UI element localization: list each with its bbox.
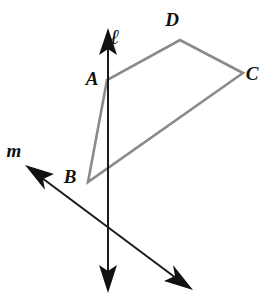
line-label-m: m [7, 140, 22, 161]
line-m-arrowhead-downright-icon [164, 265, 193, 290]
geometry-canvas: A B C D ℓ m [0, 0, 276, 305]
quadrilateral-abcd [88, 40, 243, 182]
vertex-label-c: C [246, 63, 259, 84]
geometry-diagram: A B C D ℓ m [0, 0, 276, 305]
line-label-l: ℓ [111, 25, 120, 49]
line-l [99, 28, 117, 293]
vertex-label-a: A [85, 68, 99, 89]
vertex-label-b: B [63, 166, 77, 187]
line-m-arrowhead-upleft-icon [25, 165, 54, 190]
vertex-label-d: D [164, 9, 179, 30]
